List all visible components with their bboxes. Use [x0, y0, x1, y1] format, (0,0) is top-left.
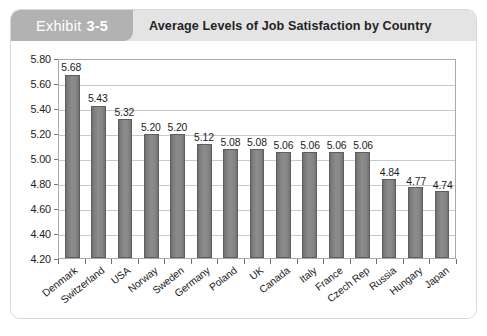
bar-slot: [165, 60, 191, 258]
x-label-slot: Hungary: [403, 264, 430, 316]
plot-area: [58, 59, 456, 259]
bar-slot: [376, 60, 402, 258]
bar-slot: [349, 60, 375, 258]
bar-japan: [435, 191, 450, 258]
bar-germany: [197, 144, 212, 258]
bar-slot: [270, 60, 296, 258]
bar-italy: [302, 152, 317, 258]
bar-poland: [223, 149, 238, 258]
bar-hungary: [408, 187, 423, 258]
bar-slot: [217, 60, 243, 258]
bars-layer: [59, 60, 455, 258]
chart-body: 5.805.605.405.205.004.804.604.404.20 5.6…: [11, 41, 477, 319]
y-axis-tick-label: 4.20: [30, 253, 51, 265]
exhibit-number-tab: Exhibit 3-5: [11, 10, 133, 41]
bar-sweden: [170, 134, 185, 258]
y-axis-tick-label: 5.80: [30, 53, 51, 65]
x-label-slot: Poland: [217, 264, 244, 316]
bar-slot: [402, 60, 428, 258]
y-axis-tick-label: 5.00: [30, 153, 51, 165]
y-axis-tick-label: 4.40: [30, 228, 51, 240]
bar-france: [329, 152, 344, 258]
y-axis-tick-label: 4.80: [30, 178, 51, 190]
bar-slot: [191, 60, 217, 258]
bar-uk: [250, 149, 265, 258]
bar-slot: [138, 60, 164, 258]
x-axis-label-uk: UK: [247, 265, 265, 282]
x-axis-tick-mark: [456, 259, 457, 264]
y-axis-tick-label: 5.20: [30, 128, 51, 140]
exhibit-header: Exhibit 3-5 Average Levels of Job Satisf…: [11, 10, 477, 42]
bar-canada: [276, 152, 291, 258]
bar-slot: [112, 60, 138, 258]
bar-slot: [244, 60, 270, 258]
x-label-slot: Japan: [429, 264, 456, 316]
bar-russia: [382, 179, 397, 258]
bar-slot: [59, 60, 85, 258]
bar-norway: [144, 134, 159, 258]
y-axis-tick-label: 5.40: [30, 103, 51, 115]
y-axis-tick-label: 5.60: [30, 78, 51, 90]
exhibit-label-number: 3-5: [87, 18, 109, 34]
bar-slot: [429, 60, 455, 258]
y-axis: 5.805.605.405.205.004.804.604.404.20: [11, 59, 58, 259]
bar-slot: [323, 60, 349, 258]
bar-czech-rep: [355, 152, 370, 258]
exhibit-title: Average Levels of Job Satisfaction by Co…: [149, 10, 432, 41]
x-label-slot: Switzerland: [85, 264, 112, 316]
bar-usa: [118, 119, 133, 258]
bar-slot: [297, 60, 323, 258]
bar-slot: [85, 60, 111, 258]
x-label-slot: Canada: [270, 264, 297, 316]
y-axis-tick-label: 4.60: [30, 203, 51, 215]
bar-switzerland: [91, 106, 106, 258]
bar-denmark: [65, 75, 80, 258]
x-axis-labels: DenmarkSwitzerlandUSANorwaySwedenGermany…: [58, 264, 456, 316]
exhibit-label-word: Exhibit: [36, 18, 82, 34]
exhibit-card: Exhibit 3-5 Average Levels of Job Satisf…: [10, 9, 477, 319]
